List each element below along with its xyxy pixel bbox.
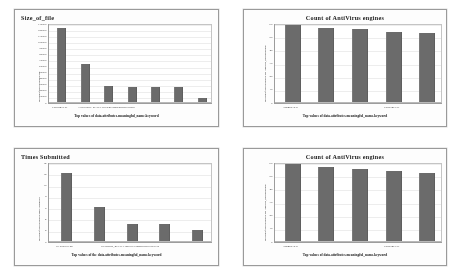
bar[interactable] bbox=[159, 224, 170, 241]
bar[interactable] bbox=[81, 64, 90, 102]
y-axis-line bbox=[48, 24, 49, 103]
x-axis-label: Top values of data.attributes.meaningful… bbox=[244, 115, 446, 119]
y-axis-tick-label: 40 bbox=[270, 188, 273, 191]
bar[interactable] bbox=[174, 87, 183, 102]
gridline bbox=[49, 187, 211, 188]
bar[interactable] bbox=[318, 167, 334, 241]
x-axis-line bbox=[48, 103, 212, 104]
gridline bbox=[49, 31, 211, 32]
bar[interactable] bbox=[128, 87, 137, 102]
y-axis-line bbox=[274, 163, 275, 242]
y-axis-tick-label: 120000 bbox=[38, 29, 47, 32]
y-axis-label: Median of data.attributes.last_analysis_… bbox=[265, 184, 268, 241]
panel-wrapper-size-of-file: Size_of_file Median of data.attributes.s… bbox=[0, 0, 229, 139]
bar[interactable] bbox=[192, 230, 203, 241]
bar[interactable] bbox=[61, 173, 72, 241]
plot-area bbox=[48, 24, 212, 103]
y-axis-tick-label: 20 bbox=[270, 75, 273, 78]
bar[interactable] bbox=[104, 86, 113, 102]
bar[interactable] bbox=[352, 29, 368, 102]
gridline bbox=[49, 49, 211, 50]
y-axis-label: Median of data.attributes.times_submitte… bbox=[39, 197, 42, 241]
bar[interactable] bbox=[386, 32, 402, 102]
x-axis-line bbox=[274, 103, 442, 104]
gridline bbox=[49, 80, 211, 81]
bar[interactable] bbox=[386, 171, 402, 241]
y-axis-tick-label: 30000 bbox=[39, 83, 46, 86]
x-axis-tick-label: abbmtx15.zl bbox=[261, 245, 321, 248]
plot-area bbox=[48, 163, 212, 242]
y-axis-tick-label: 10 bbox=[270, 88, 273, 91]
chart-title: Count of AntiVirus engines bbox=[244, 15, 446, 21]
x-axis-line bbox=[48, 242, 212, 243]
panel-wrapper-count-av-bottom: Count of AntiVirus engines Median of dat… bbox=[229, 139, 457, 278]
panel-wrapper-count-av-top: Count of AntiVirus engines Median of dat… bbox=[229, 0, 457, 139]
gridline bbox=[49, 55, 211, 56]
x-axis-label: Top values of the data.attributes.meanin… bbox=[15, 254, 218, 258]
y-axis-tick-label: 50000 bbox=[39, 71, 46, 74]
x-axis-line bbox=[274, 242, 442, 243]
plot-area bbox=[274, 163, 442, 242]
y-axis-tick-label: 10000 bbox=[39, 95, 46, 98]
y-axis-tick-label: 30 bbox=[270, 201, 273, 204]
x-axis-label: Top values of data.attributes.meaningful… bbox=[244, 254, 446, 258]
bar[interactable] bbox=[285, 164, 301, 241]
gridline bbox=[49, 198, 211, 199]
y-axis-tick-label: 14 bbox=[44, 162, 47, 165]
y-axis-tick-label: 60 bbox=[270, 162, 273, 165]
x-axis-tick-label: abbmtx15.zl bbox=[261, 106, 321, 109]
chart-title: Size_of_file bbox=[21, 15, 54, 21]
bar[interactable] bbox=[285, 25, 301, 102]
y-axis-line bbox=[48, 163, 49, 242]
chart-panel-times-submitted[interactable]: Times Submitted Median of data.attribute… bbox=[14, 148, 219, 266]
y-axis-tick-label: 110000 bbox=[38, 35, 47, 38]
bar[interactable] bbox=[419, 33, 435, 102]
y-axis-tick-label: 40 bbox=[270, 49, 273, 52]
y-axis-tick-label: 12 bbox=[44, 173, 47, 176]
gridline bbox=[49, 37, 211, 38]
x-axis-tick-label: Flood Beer_4CTx.LOcDr4P3bmtcuncts7Se8Sld bbox=[77, 106, 137, 109]
y-axis-line bbox=[274, 24, 275, 103]
chart-panel-count-av-bottom[interactable]: Count of AntiVirus engines Median of dat… bbox=[243, 148, 447, 266]
y-axis-tick-label: 100000 bbox=[38, 41, 47, 44]
y-axis-tick-label: 20000 bbox=[39, 89, 46, 92]
bar[interactable] bbox=[151, 87, 160, 102]
x-axis-tick-label: CardDhx.exe bbox=[362, 106, 422, 109]
bar[interactable] bbox=[127, 224, 138, 241]
y-axis-tick-label: 60000 bbox=[39, 65, 46, 68]
y-axis-tick-label: 130000 bbox=[38, 23, 47, 26]
y-axis-tick-label: 0 bbox=[45, 102, 46, 105]
chart-panel-size-of-file[interactable]: Size_of_file Median of data.attributes.s… bbox=[14, 9, 219, 127]
chart-grid: Size_of_file Median of data.attributes.s… bbox=[0, 0, 457, 278]
bar[interactable] bbox=[352, 169, 368, 241]
y-axis-tick-label: 80000 bbox=[39, 53, 46, 56]
x-axis-tick-label: 16-0000.03.45 bbox=[34, 245, 94, 248]
gridline bbox=[49, 220, 211, 221]
chart-panel-count-av-top[interactable]: Count of AntiVirus engines Median of dat… bbox=[243, 9, 447, 127]
bar[interactable] bbox=[94, 207, 105, 241]
bar[interactable] bbox=[318, 28, 334, 102]
chart-title: Times Submitted bbox=[21, 154, 70, 160]
y-axis-tick-label: 10 bbox=[44, 184, 47, 187]
plot-area bbox=[274, 24, 442, 103]
y-axis-tick-label: 60 bbox=[270, 23, 273, 26]
chart-title: Count of AntiVirus engines bbox=[244, 154, 446, 160]
gridline bbox=[49, 61, 211, 62]
y-axis-tick-label: 2 bbox=[45, 229, 46, 232]
y-axis-tick-label: 40000 bbox=[39, 77, 46, 80]
gridline bbox=[49, 68, 211, 69]
y-axis-tick-label: 70000 bbox=[39, 59, 46, 62]
gridline bbox=[49, 43, 211, 44]
y-axis-tick-label: 0 bbox=[45, 241, 46, 244]
bar[interactable] bbox=[198, 98, 207, 102]
y-axis-tick-label: 6 bbox=[45, 207, 46, 210]
y-axis-tick-label: 10 bbox=[270, 227, 273, 230]
gridline bbox=[49, 164, 211, 165]
bar[interactable] bbox=[419, 173, 435, 241]
bar[interactable] bbox=[57, 28, 66, 102]
y-axis-tick-label: 8 bbox=[45, 195, 46, 198]
y-axis-tick-label: 20 bbox=[270, 214, 273, 217]
gridline bbox=[49, 175, 211, 176]
y-axis-tick-label: 0 bbox=[271, 102, 272, 105]
x-axis-tick-label: Ito odbara_4CTx1.LBoDoC39bbnxbccb7xzbYcB bbox=[100, 245, 160, 248]
